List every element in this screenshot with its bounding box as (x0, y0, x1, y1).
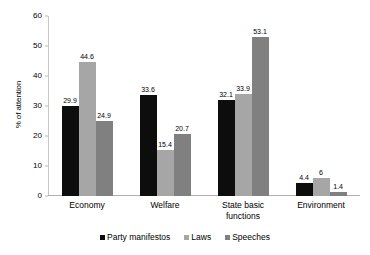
legend-swatch-icon (184, 235, 189, 240)
bar-value-label: 4.4 (299, 174, 309, 181)
bar[interactable] (62, 106, 79, 196)
bar[interactable] (313, 178, 330, 196)
legend-swatch-icon (100, 235, 105, 240)
bar-slot: 53.1 (252, 16, 269, 196)
bar-slot: 33.9 (235, 16, 252, 196)
bar-value-label: 53.1 (253, 28, 267, 35)
bar-slot: 44.6 (79, 16, 96, 196)
legend-item[interactable]: Party manifestos (100, 233, 170, 242)
bar[interactable] (79, 62, 96, 196)
bar-value-label: 6 (319, 169, 323, 176)
bar-chart: % of attention 0102030405060 29.944.624.… (0, 0, 370, 255)
y-axis-title: % of attention (14, 50, 23, 160)
x-axis-category-labels: EconomyWelfareState basic functionsEnvir… (48, 200, 360, 222)
legend-label: Party manifestos (107, 233, 170, 242)
bar[interactable] (252, 37, 269, 196)
bar-value-label: 33.9 (236, 85, 250, 92)
bar-slot: 4.4 (296, 16, 313, 196)
bar-slot: 24.9 (96, 16, 113, 196)
bar-value-label: 24.9 (97, 112, 111, 119)
legend-label: Laws (191, 233, 211, 242)
bar[interactable] (96, 121, 113, 196)
bar[interactable] (296, 183, 313, 196)
bar-slot: 15.4 (157, 16, 174, 196)
bar-slot: 32.1 (218, 16, 235, 196)
bar-slot: 1.4 (330, 16, 347, 196)
chart-legend: Party manifestosLawsSpeeches (0, 233, 370, 242)
bar-value-label: 32.1 (219, 91, 233, 98)
bar-group-bars: 29.944.624.9 (62, 16, 113, 196)
legend-label: Speeches (232, 233, 270, 242)
bar-value-label: 20.7 (175, 125, 189, 132)
bar[interactable] (330, 192, 347, 196)
bar-value-label: 33.6 (141, 86, 155, 93)
plot-area: 0102030405060 29.944.624.933.615.420.732… (48, 16, 360, 196)
bar-slot: 20.7 (174, 16, 191, 196)
bar[interactable] (174, 134, 191, 196)
bar-slot: 6 (313, 16, 330, 196)
bar-value-label: 15.4 (158, 141, 172, 148)
bar-group-bars: 33.615.420.7 (140, 16, 191, 196)
bar-group: 32.133.953.1 (204, 16, 282, 196)
bar-group-bars: 4.461.4 (296, 16, 347, 196)
x-category-label: Environment (282, 200, 360, 222)
bar[interactable] (157, 150, 174, 196)
bar-value-label: 44.6 (80, 53, 94, 60)
x-category-label: State basic functions (204, 200, 282, 222)
legend-item[interactable]: Speeches (225, 233, 270, 242)
bar-groups: 29.944.624.933.615.420.732.133.953.14.46… (48, 16, 360, 196)
bar-slot: 33.6 (140, 16, 157, 196)
bar[interactable] (218, 100, 235, 196)
legend-item[interactable]: Laws (184, 233, 211, 242)
bar-value-label: 29.9 (63, 97, 77, 104)
bar[interactable] (140, 95, 157, 196)
bar-value-label: 1.4 (333, 183, 343, 190)
bar-group: 4.461.4 (282, 16, 360, 196)
bar-group: 33.615.420.7 (126, 16, 204, 196)
bar-group: 29.944.624.9 (48, 16, 126, 196)
x-category-label: Economy (48, 200, 126, 222)
legend-swatch-icon (225, 235, 230, 240)
bar-group-bars: 32.133.953.1 (218, 16, 269, 196)
bar[interactable] (235, 94, 252, 196)
x-category-label: Welfare (126, 200, 204, 222)
bar-slot: 29.9 (62, 16, 79, 196)
